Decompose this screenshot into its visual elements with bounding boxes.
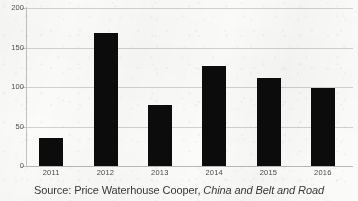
gridline-0 (27, 166, 353, 167)
x-axis-tick-labels: 201120122013201420152016 (27, 169, 353, 181)
gridline-100 (27, 87, 353, 88)
y-tick-label-150: 150 (2, 44, 24, 52)
bar-2014 (202, 66, 226, 166)
x-tick-label-2014: 2014 (187, 169, 241, 177)
chart-screenshot: 050100150200 201120122013201420152016 So… (0, 0, 358, 201)
bar-2016 (311, 88, 335, 166)
source-caption-title: China and Belt and Road (203, 184, 324, 196)
gridline-200 (27, 8, 353, 9)
bar-2011 (39, 138, 63, 166)
x-tick-label-2011: 2011 (24, 169, 78, 177)
bar-2015 (257, 78, 281, 166)
plot-area (27, 8, 353, 166)
x-tick-label-2013: 2013 (133, 169, 187, 177)
y-tick-label-200: 200 (2, 4, 24, 12)
y-tick-label-0: 0 (2, 162, 24, 170)
bar-2012 (94, 33, 118, 166)
gridline-150 (27, 48, 353, 49)
y-tick-label-100: 100 (2, 83, 24, 91)
source-caption-prefix: Source: Price Waterhouse Cooper, (34, 184, 200, 196)
y-tick-label-50: 50 (2, 123, 24, 131)
gridline-50 (27, 127, 353, 128)
y-axis-tick-labels: 050100150200 (0, 0, 24, 201)
x-tick-label-2015: 2015 (241, 169, 295, 177)
bar-2013 (148, 105, 172, 166)
x-tick-label-2012: 2012 (78, 169, 132, 177)
source-caption: Source: Price Waterhouse Cooper, China a… (0, 184, 358, 196)
x-tick-label-2016: 2016 (296, 169, 350, 177)
